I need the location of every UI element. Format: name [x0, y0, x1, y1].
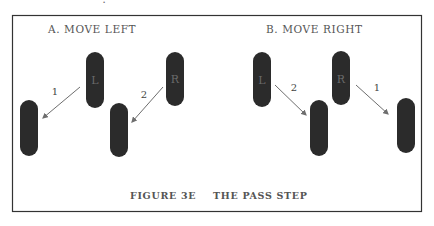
arrow-step-2: [132, 87, 163, 122]
foot-label: R: [337, 73, 346, 86]
step-number: 1: [374, 82, 380, 93]
foot-left-end: [310, 100, 328, 156]
step-number: 2: [291, 82, 297, 93]
figure-caption: FIGURE 3E THE PASS STEP: [130, 190, 308, 201]
panel-title: B. MOVE RIGHT: [266, 23, 363, 35]
foot-left-end: [20, 100, 38, 156]
arrow-step-1: [43, 87, 80, 118]
arrow-step-1: [356, 85, 388, 114]
foot-label: L: [258, 74, 266, 87]
step-number: 2: [141, 89, 147, 100]
foot-right-end: [397, 98, 415, 153]
clipped-text-above: ․: [102, 0, 106, 6]
figure-border: [13, 16, 422, 212]
panel-move-right: B. MOVE RIGHT L R 2 1: [253, 23, 415, 156]
panel-title: A. MOVE LEFT: [47, 23, 136, 35]
caption-title: THE PASS STEP: [213, 190, 308, 201]
foot-right-end: [110, 103, 128, 157]
foot-label: R: [171, 73, 180, 86]
foot-label: L: [91, 74, 99, 87]
pass-step-diagram: ․ A. MOVE LEFT L R 1 2 B. MOVE RIGHT L R…: [0, 0, 434, 226]
step-number: 1: [52, 86, 58, 97]
caption-label: FIGURE 3E: [130, 190, 196, 201]
panel-move-left: A. MOVE LEFT L R 1 2: [20, 23, 184, 157]
